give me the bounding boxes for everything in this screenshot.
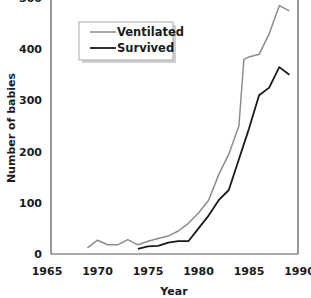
x-tick-label: 1980 xyxy=(183,265,214,278)
x-tick-label: 1990 xyxy=(284,265,311,278)
legend-label-ventilated: Ventilated xyxy=(117,25,184,39)
x-tick-label: 1975 xyxy=(133,265,164,278)
y-tick-label: 100 xyxy=(19,197,42,210)
x-axis-title: Year xyxy=(159,285,188,298)
x-tick-label: 1985 xyxy=(234,265,265,278)
y-tick-label: 300 xyxy=(19,94,42,107)
x-tick-labels: 196519701975198019851990 xyxy=(32,265,311,278)
legend-label-survived: Survived xyxy=(117,41,174,55)
y-tick-label: 200 xyxy=(19,146,42,159)
y-tick-label: 400 xyxy=(19,43,42,56)
legend: Ventilated Survived xyxy=(79,22,184,63)
y-tick-label: 0 xyxy=(34,248,42,261)
y-tick-labels: 0100200300400500 xyxy=(19,0,42,261)
series-line-survived xyxy=(138,67,290,249)
line-chart: 0100200300400500 19651970197519801985199… xyxy=(0,0,311,298)
x-tick-label: 1970 xyxy=(82,265,113,278)
x-tick-label: 1965 xyxy=(32,265,63,278)
y-tick-label: 500 xyxy=(19,0,42,5)
y-axis-title: Number of babies xyxy=(5,72,18,183)
